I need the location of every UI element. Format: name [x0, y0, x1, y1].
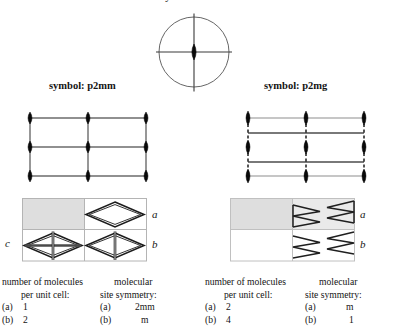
cell-row-letter-b-right: b: [360, 238, 366, 250]
left-site-head-line2: site symmetry:: [100, 289, 157, 302]
right-site-value-b: 1: [326, 314, 354, 327]
cell-shaded-top-left: [23, 199, 85, 230]
left-count-tag-a: (a): [2, 301, 23, 314]
twofold-node: [28, 112, 32, 124]
cell-row-letter-b-left: b: [152, 238, 158, 250]
symbol-label-left: symbol: p2mm: [49, 80, 116, 91]
right-count-head-line1: number of molecules: [205, 276, 286, 289]
right-count-row-a: (a)2: [205, 301, 286, 314]
twofold-rotation-lens: [192, 44, 196, 60]
cell-shaded-top-left: [231, 199, 293, 230]
left-count-tag-b: (b): [2, 314, 23, 327]
right-count-tag-a: (a): [205, 301, 226, 314]
right-site-tag-a: (a): [305, 301, 326, 314]
motif-zigzag-bottom-left: [293, 236, 320, 258]
point-group-circle-diagram: [152, 13, 238, 93]
twofold-node: [304, 111, 308, 125]
twofold-node: [246, 111, 250, 125]
right-count-head-line2: per unit cell:: [205, 289, 286, 302]
right-site-value-a: m: [326, 301, 353, 314]
right-site-head-line2: site symmetry:: [305, 289, 362, 302]
twofold-node: [246, 169, 250, 183]
left-count-row-a: (a)1: [2, 301, 83, 314]
crystal-class-title: crystal class: 2mm: [0, 0, 396, 2]
left-count-head-line1: number of molecules: [2, 276, 83, 289]
left-site-row-a: (a)2mm: [100, 301, 157, 314]
left-count-value-a: 1: [23, 301, 28, 312]
symbol-label-right: symbol: p2mg: [264, 80, 327, 91]
lattice-node-group: [246, 111, 366, 183]
cell-row-letter-a-left: a: [152, 208, 158, 220]
twofold-node: [304, 169, 308, 183]
right-site-tag-b: (b): [305, 314, 326, 327]
cell-row-letter-a-right: a: [360, 208, 366, 220]
left-site-value-b: m: [121, 314, 148, 327]
twofold-node: [362, 140, 366, 154]
right-count-tag-b: (b): [205, 314, 226, 327]
left-site-tag-b: (b): [100, 314, 121, 327]
twofold-node: [246, 140, 250, 154]
motif-zigzag-bottom-right: [327, 232, 354, 254]
unit-cell-pattern-p2mm: [22, 198, 148, 262]
left-count-head-line2: per unit cell:: [2, 289, 83, 302]
right-molecule-count-block: number of molecules per unit cell: (a)2 …: [205, 276, 286, 326]
motif-diamond-plain: [86, 202, 144, 227]
twofold-node: [28, 141, 32, 153]
twofold-node: [86, 141, 90, 153]
cell-letter-c-left: c: [5, 237, 10, 249]
right-site-row-b: (b)1: [305, 314, 362, 327]
left-count-value-b: 2: [23, 314, 28, 325]
lattice-diagram-p2mm: [22, 108, 154, 184]
right-count-value-a: 2: [226, 301, 231, 312]
twofold-node: [144, 170, 148, 182]
left-site-tag-a: (a): [100, 301, 121, 314]
left-site-value-a: 2mm: [121, 301, 155, 314]
twofold-node: [362, 169, 366, 183]
unit-cell-pattern-p2mg: [230, 198, 356, 262]
twofold-node: [28, 170, 32, 182]
right-count-value-b: 4: [226, 314, 231, 325]
right-site-row-a: (a)m: [305, 301, 362, 314]
left-count-row-b: (b)2: [2, 314, 83, 327]
right-site-head-line1: molecular: [305, 276, 362, 289]
left-site-head-line1: molecular: [100, 276, 157, 289]
twofold-node: [304, 140, 308, 154]
twofold-node: [86, 112, 90, 124]
twofold-node: [86, 170, 90, 182]
left-molecule-count-block: number of molecules per unit cell: (a)1 …: [2, 276, 83, 326]
lattice-diagram-p2mg: [240, 108, 372, 184]
twofold-node: [144, 112, 148, 124]
left-site-row-b: (b)m: [100, 314, 157, 327]
left-site-symmetry-block: molecular site symmetry: (a)2mm (b)m: [100, 276, 157, 326]
twofold-node: [362, 111, 366, 125]
twofold-node: [144, 141, 148, 153]
right-count-row-b: (b)4: [205, 314, 286, 327]
right-site-symmetry-block: molecular site symmetry: (a)m (b)1: [305, 276, 362, 326]
